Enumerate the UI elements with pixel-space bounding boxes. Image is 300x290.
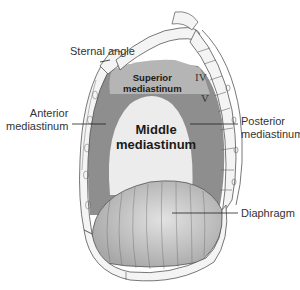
label-diaphragm: Diaphragm xyxy=(241,207,295,220)
middle-line2: mediastinum xyxy=(116,137,196,152)
label-vertebra-v: V xyxy=(201,92,209,104)
posterior-line2: mediastinum xyxy=(241,128,300,141)
superior-line2: mediastinum xyxy=(123,83,182,94)
middle-line1: Middle xyxy=(116,122,196,137)
label-anterior-mediastinum: Anterior mediastinum xyxy=(6,107,68,133)
posterior-line1: Posterior xyxy=(241,115,300,128)
label-vertebra-iv: IV xyxy=(195,71,207,83)
label-posterior-mediastinum: Posterior mediastinum xyxy=(241,115,300,141)
anterior-line2: mediastinum xyxy=(6,120,68,133)
superior-line1: Superior xyxy=(123,72,182,83)
anterior-line1: Anterior xyxy=(6,107,68,120)
label-sternal-angle: Sternal angle xyxy=(70,45,135,58)
label-middle-mediastinum: Middle mediastinum xyxy=(116,122,196,152)
label-superior-mediastinum: Superior mediastinum xyxy=(123,72,182,94)
